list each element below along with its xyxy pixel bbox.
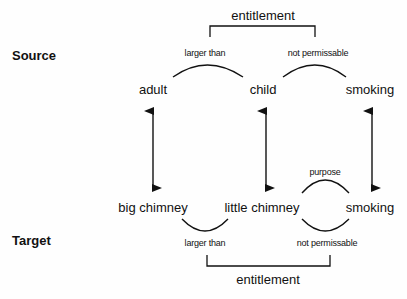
source-node-child: child [250, 82, 277, 97]
top-entitlement-label: entitlement [231, 8, 295, 23]
target-node-little-chimney: little chimney [224, 200, 299, 215]
purpose-label: purpose [309, 167, 340, 177]
bottom-larger-than-label: larger than [185, 238, 226, 248]
bottom-not-permissable-label: not permissable [297, 238, 358, 248]
bottom-entitlement-bracket [207, 255, 330, 266]
source-node-smoking: smoking [346, 82, 394, 97]
top-entitlement-bracket [210, 26, 315, 37]
target-node-big-chimney: big chimney [118, 200, 187, 215]
bottom-larger-than-arc [182, 219, 228, 231]
bottom-entitlement-label: entitlement [236, 272, 300, 287]
purpose-arc [302, 180, 349, 193]
source-node-adult: adult [139, 82, 167, 97]
target-node-smoking: smoking [346, 200, 394, 215]
diagram-lines [0, 0, 407, 299]
target-row-label: Target [12, 233, 51, 248]
top-not-permissable-arc [283, 65, 346, 77]
top-not-permissable-label: not permissable [288, 48, 349, 58]
top-larger-than-arc [173, 65, 243, 77]
bottom-not-permissable-arc [302, 219, 349, 231]
source-row-label: Source [12, 48, 56, 63]
top-larger-than-label: larger than [185, 48, 226, 58]
analogy-diagram: Source Target entitlement larger than no… [0, 0, 407, 299]
